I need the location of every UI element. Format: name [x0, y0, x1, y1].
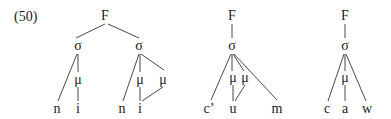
tree-node-m1: μ	[74, 73, 82, 87]
tree-node-F: F	[341, 9, 349, 23]
tree-node-i1: i	[76, 102, 80, 116]
tree-node-c: c’	[204, 102, 215, 116]
tree-node-m2: μ	[241, 71, 249, 85]
tree-node-F: F	[228, 9, 236, 23]
tree-node-n1: n	[54, 102, 61, 116]
tree-node-s: σ	[228, 39, 236, 53]
tree-node-a: a	[342, 102, 348, 116]
tree-node-u: u	[230, 102, 237, 116]
tree-node-n2: n	[119, 102, 126, 116]
tree-edge	[141, 54, 164, 70]
tree-node-s2: σ	[135, 39, 143, 53]
tree-edge	[142, 87, 163, 101]
tree-edge	[235, 85, 245, 101]
tree-node-s: σ	[341, 39, 349, 53]
tree-node-m2: μ	[136, 73, 144, 87]
tree-edge	[76, 24, 105, 38]
tree-node-m3: μ	[159, 73, 167, 87]
tree-node-m: m	[272, 102, 283, 116]
tree-edge	[211, 54, 231, 100]
tree-node-i2: i	[138, 102, 142, 116]
tree-edge	[108, 24, 139, 38]
tree-node-s1: σ	[74, 39, 82, 53]
tree-node-m1: μ	[229, 71, 237, 85]
tree-node-w: w	[362, 102, 372, 116]
tree-node-F: F	[101, 9, 109, 23]
tree-edge	[346, 54, 366, 101]
tree-node-c: c	[324, 102, 330, 116]
tree-node-m: μ	[341, 71, 349, 85]
